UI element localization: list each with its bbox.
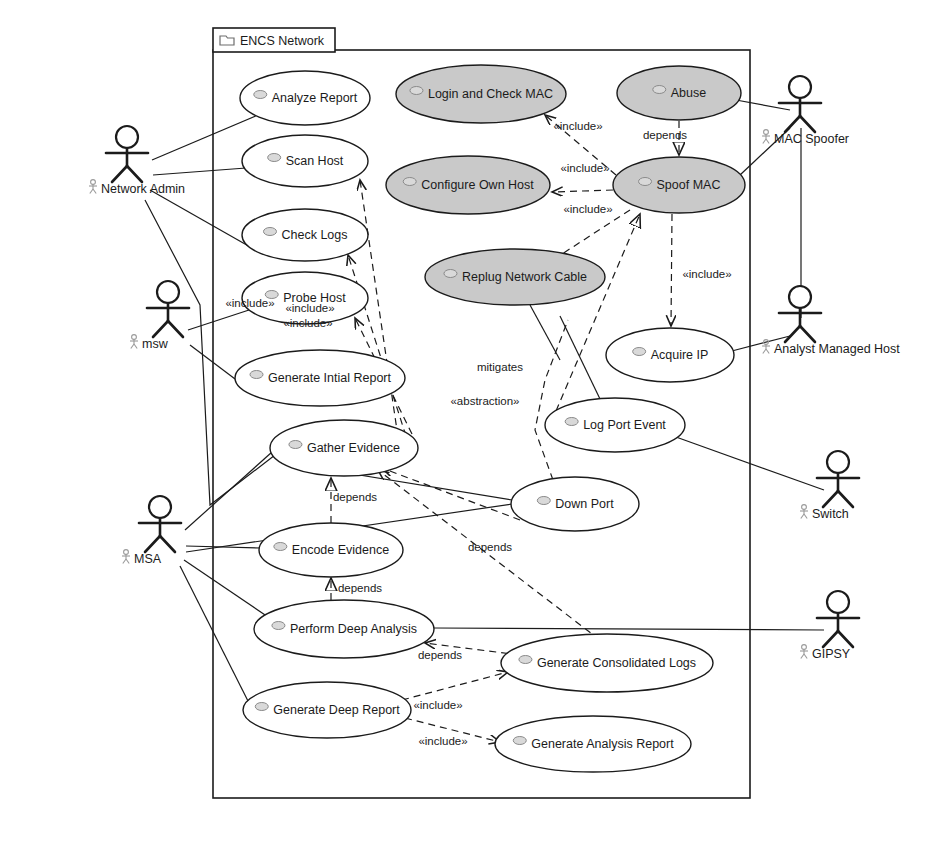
actor-mini-icon: [89, 180, 97, 194]
use-case-analyze_report[interactable]: Analyze Report: [240, 71, 370, 125]
use-case-gen_consolidated[interactable]: Generate Consolidated Logs: [501, 634, 713, 692]
actor-leg-left: [823, 491, 838, 507]
use-case-gen_analysis[interactable]: Generate Analysis Report: [495, 716, 691, 772]
use-case-perform_deep[interactable]: Perform Deep Analysis: [254, 600, 434, 658]
use-case-label: Scan Host: [286, 154, 344, 168]
actor-leg-right: [127, 166, 142, 182]
use-case-generate_deep[interactable]: Generate Deep Report: [243, 682, 411, 738]
use-case-label: Generate Deep Report: [273, 703, 400, 717]
edge-label-inc_deep_a: «include»: [413, 699, 462, 711]
edge-label-mitigates: mitigates: [477, 361, 523, 373]
use-case-log_port_event[interactable]: Log Port Event: [545, 398, 685, 452]
use-case-label: Generate Consolidated Logs: [537, 656, 696, 670]
use-case-oval-icon: [444, 270, 457, 278]
edge-label-inc_config: «include»: [560, 162, 609, 174]
actor-leg-right: [160, 536, 175, 552]
edge-label-depends_cons: depends: [418, 649, 462, 661]
use-case-label: Analyze Report: [272, 91, 358, 105]
use-case-oval-icon: [633, 348, 646, 356]
use-case-replug_cable[interactable]: Replug Network Cable: [425, 249, 605, 305]
use-case-label: Acquire IP: [651, 348, 709, 362]
use-case-oval-icon: [274, 543, 287, 551]
actor-mini-icon: [762, 130, 770, 144]
use-case-label: Spoof MAC: [657, 178, 721, 192]
actor-switch[interactable]: Switch: [800, 451, 859, 521]
use-case-oval-icon: [410, 87, 423, 95]
actor-label: msw: [142, 337, 169, 351]
use-case-label: Generate Intial Report: [268, 371, 392, 385]
use-case-gather_evidence[interactable]: Gather Evidence: [270, 420, 418, 476]
use-case-oval-icon: [268, 154, 281, 162]
actor-head: [149, 496, 171, 518]
edge-label-depends_abuse: depends: [643, 129, 687, 141]
use-case-encode_evidence[interactable]: Encode Evidence: [259, 523, 403, 577]
edge-label-inc_left_b: «include»: [283, 317, 332, 329]
use-case-oval-icon: [254, 91, 267, 99]
actor-leg-left: [153, 321, 168, 337]
actor-analyst_managed_host[interactable]: Analyst Managed Host: [762, 286, 900, 356]
actor-head: [827, 451, 849, 473]
actor-mac_spoofer[interactable]: MAC Spoofer: [762, 76, 849, 146]
actor-leg-right: [838, 491, 853, 507]
use-case-acquire_ip[interactable]: Acquire IP: [606, 328, 734, 382]
actor-label: Analyst Managed Host: [774, 342, 900, 356]
package-title: ENCS Network: [240, 34, 325, 48]
use-case-oval-icon: [639, 178, 652, 186]
use-case-spoof_mac[interactable]: Spoof MAC: [613, 157, 745, 213]
actor-label: Network Admin: [101, 182, 185, 196]
use-case-check_logs[interactable]: Check Logs: [242, 209, 368, 261]
actor-msa[interactable]: MSA: [122, 496, 181, 566]
actor-gipsy[interactable]: GIPSY: [800, 591, 859, 661]
use-case-label: Login and Check MAC: [428, 87, 553, 101]
actor-head: [157, 281, 179, 303]
use-case-oval-icon: [403, 178, 416, 186]
use-case-label: Gather Evidence: [307, 441, 400, 455]
edge-label-inc_acquire: «include»: [682, 268, 731, 280]
actor-network_admin[interactable]: Network Admin: [89, 126, 185, 196]
edge-label-inc_left_c: «include»: [225, 297, 274, 309]
use-case-layer: Analyze ReportScan HostCheck LogsProbe H…: [235, 65, 745, 772]
actor-leg-right: [838, 631, 853, 647]
use-case-login_check_mac[interactable]: Login and Check MAC: [396, 65, 566, 123]
actor-label: Switch: [812, 507, 849, 521]
actor-leg-right: [800, 116, 815, 132]
use-case-generate_initial[interactable]: Generate Intial Report: [235, 350, 405, 406]
use-case-label: Configure Own Host: [421, 178, 534, 192]
use-case-oval-icon: [519, 656, 532, 664]
use-case-label: Down Port: [555, 497, 614, 511]
use-case-configure_own[interactable]: Configure Own Host: [386, 156, 550, 214]
actor-mini-icon: [130, 335, 138, 349]
use-case-abuse[interactable]: Abuse: [617, 66, 741, 120]
actor-head: [827, 591, 849, 613]
edge-label-inc_replug: «include»: [563, 203, 612, 215]
actor-mini-icon: [800, 505, 808, 519]
actor-head: [116, 126, 138, 148]
actor-leg-left: [112, 166, 127, 182]
use-case-label: Log Port Event: [583, 418, 666, 432]
actor-label: MSA: [134, 552, 162, 566]
edge-label-depends_encode: depends: [338, 582, 382, 594]
actor-msw[interactable]: msw: [130, 281, 189, 351]
edge-label-depends_deep: depends: [468, 541, 512, 553]
use-case-oval-icon: [289, 441, 302, 449]
use-case-down_port[interactable]: Down Port: [511, 477, 639, 531]
actor-leg-right: [168, 321, 183, 337]
actor-label: GIPSY: [812, 647, 851, 661]
edge-label-inc_deep_b: «include»: [418, 735, 467, 747]
use-case-oval-icon: [565, 418, 578, 426]
use-case-oval-icon: [272, 622, 285, 630]
edge-label-depends_gather: depends: [333, 491, 377, 503]
use-case-label: Abuse: [671, 86, 706, 100]
actor-mini-icon: [122, 550, 130, 564]
use-case-label: Check Logs: [281, 228, 347, 242]
actor-head: [789, 286, 811, 308]
use-case-scan_host[interactable]: Scan Host: [242, 135, 368, 187]
use-case-label: Replug Network Cable: [462, 270, 587, 284]
use-case-oval-icon: [537, 497, 550, 505]
use-case-diagram-canvas: ENCS Network: [0, 0, 950, 846]
actor-label: MAC Spoofer: [774, 132, 849, 146]
edge-label-inc_left_a: «include»: [285, 302, 334, 314]
actor-mini-icon: [800, 645, 808, 659]
use-case-label: Generate Analysis Report: [531, 737, 674, 751]
use-case-oval-icon: [513, 737, 526, 745]
